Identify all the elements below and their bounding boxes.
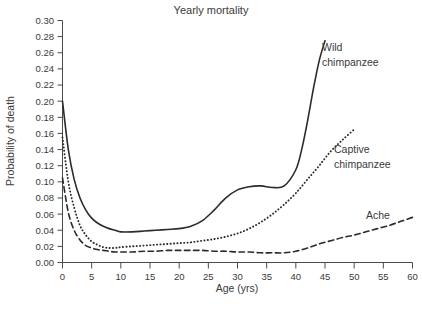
- x-tick-label: 35: [261, 271, 272, 282]
- series-label-wild-chimpanzee-line2: chimpanzee: [322, 56, 379, 68]
- y-tick-label: 0.24: [36, 63, 55, 74]
- y-axis-title: Probability of death: [4, 96, 16, 186]
- y-tick-label: 0.22: [36, 79, 55, 90]
- y-tick-label: 0.26: [36, 47, 55, 58]
- x-tick-label: 45: [320, 271, 331, 282]
- x-tick-label: 10: [116, 271, 127, 282]
- y-tick-label: 0.14: [36, 144, 55, 155]
- yearly-mortality-line-chart: Yearly mortality Probability of death Ag…: [0, 0, 422, 310]
- y-tick-label: 0.06: [36, 209, 55, 220]
- x-tick-label: 55: [378, 271, 389, 282]
- y-tick-label: 0.12: [36, 160, 55, 171]
- y-tick-label: 0.08: [36, 192, 55, 203]
- x-tick-label: 25: [203, 271, 214, 282]
- y-tick-label: 0.10: [36, 176, 55, 187]
- x-tick-label: 60: [407, 271, 418, 282]
- series-label-ache: Ache: [366, 209, 390, 221]
- x-tick-label: 40: [291, 271, 302, 282]
- series-label-wild-chimpanzee-line1: Wild: [322, 41, 343, 53]
- y-tick-label: 0.20: [36, 96, 55, 107]
- y-tick-label: 0.04: [36, 225, 55, 236]
- x-axis: 051015202530354045505560: [60, 263, 418, 283]
- series-label-captive-chimpanzee-line2: chimpanzee: [334, 158, 391, 170]
- x-axis-title: Age (yrs): [216, 282, 259, 294]
- y-tick-label: 0.30: [36, 15, 55, 26]
- x-tick-label: 15: [145, 271, 156, 282]
- y-tick-label: 0.28: [36, 31, 55, 42]
- x-tick-label: 20: [174, 271, 185, 282]
- series-label-ache-line1: Ache: [366, 209, 390, 221]
- x-tick-label: 30: [232, 271, 243, 282]
- y-axis: 0.000.020.040.060.080.100.120.140.160.18…: [36, 15, 63, 268]
- y-tick-label: 0.18: [36, 112, 55, 123]
- chart-figure: Yearly mortality Probability of death Ag…: [0, 0, 422, 310]
- y-tick-label: 0.00: [36, 257, 55, 268]
- x-tick-label: 50: [349, 271, 360, 282]
- series-label-wild-chimpanzee: Wild chimpanzee: [322, 41, 379, 68]
- x-tick-label: 0: [60, 271, 65, 282]
- x-tick-label: 5: [89, 271, 94, 282]
- y-tick-label: 0.02: [36, 241, 55, 252]
- y-tick-label: 0.16: [36, 128, 55, 139]
- series-label-captive-chimpanzee: Captive chimpanzee: [334, 143, 391, 170]
- series-label-captive-chimpanzee-line1: Captive: [334, 143, 370, 155]
- chart-title: Yearly mortality: [174, 4, 249, 16]
- series-curve-captive-chimpanzee: [63, 129, 355, 248]
